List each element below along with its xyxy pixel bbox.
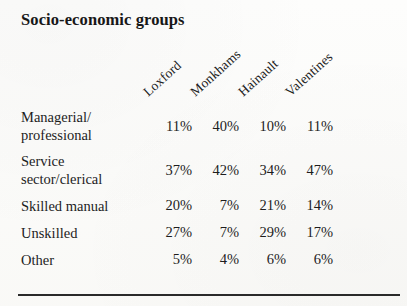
table-cell: 7% xyxy=(193,224,239,241)
table-row: Service sector/clerical 37% 42% 34% 47% xyxy=(0,148,407,192)
table-cell: 5% xyxy=(146,251,192,268)
table-body: Managerial/ professional 11% 40% 10% 11%… xyxy=(0,104,407,273)
page-title: Socio-economic groups xyxy=(21,10,185,30)
column-header-monkhams: Monkhams xyxy=(187,46,244,100)
table-cell: 7% xyxy=(193,197,239,214)
column-header-hainault: Hainault xyxy=(235,56,281,100)
table-cell: 6% xyxy=(287,251,333,268)
row-label: Service sector/clerical xyxy=(0,152,144,188)
table-cell: 27% xyxy=(146,224,192,241)
column-header-valentines: Valentines xyxy=(282,49,336,100)
scanned-table-page: Socio-economic groups Loxford Monkhams H… xyxy=(0,0,407,306)
table-cell: 4% xyxy=(193,251,239,268)
table-bottom-rule xyxy=(18,294,400,296)
table-cell: 14% xyxy=(287,197,333,214)
table-cell: 21% xyxy=(240,197,286,214)
table-cell: 37% xyxy=(146,162,192,179)
table-cell: 6% xyxy=(240,251,286,268)
table-cell: 47% xyxy=(287,162,333,179)
table-cell: 11% xyxy=(146,118,192,135)
table-row: Managerial/ professional 11% 40% 10% 11% xyxy=(0,104,407,148)
table-cell: 20% xyxy=(146,197,192,214)
table-row: Unskilled 27% 7% 29% 17% xyxy=(0,219,407,246)
table-cell: 29% xyxy=(240,224,286,241)
table-row: Other 5% 4% 6% 6% xyxy=(0,246,407,273)
row-label: Other xyxy=(0,251,144,269)
row-label: Skilled manual xyxy=(0,197,144,215)
table-cell: 40% xyxy=(193,118,239,135)
table-row: Skilled manual 20% 7% 21% 14% xyxy=(0,192,407,219)
column-header-loxford: Loxford xyxy=(140,58,185,100)
row-label: Managerial/ professional xyxy=(0,108,144,144)
table-cell: 17% xyxy=(287,224,333,241)
row-label: Unskilled xyxy=(0,224,144,242)
table-cell: 42% xyxy=(193,162,239,179)
column-header-row: Loxford Monkhams Hainault Valentines xyxy=(0,44,407,100)
table-cell: 10% xyxy=(240,118,286,135)
table-cell: 34% xyxy=(240,162,286,179)
table-cell: 11% xyxy=(287,118,333,135)
